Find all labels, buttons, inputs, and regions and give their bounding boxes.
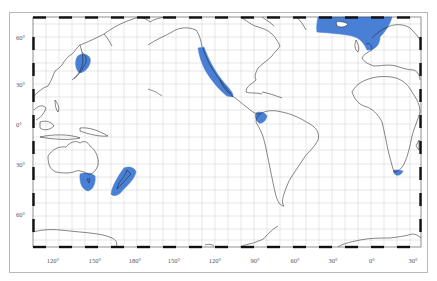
lon-label-30e: 30°: [408, 257, 417, 264]
lat-label-60n: 60°: [16, 34, 25, 41]
lon-label-0: 0°: [369, 257, 375, 264]
lat-label-30n: 30°: [16, 81, 25, 88]
lat-label-60s: 60°: [16, 211, 25, 218]
lat-label-30s: 30°: [16, 161, 25, 168]
lon-label-120w: 120°: [209, 257, 221, 264]
world-map: [0, 0, 437, 281]
lon-label-120e: 120°: [47, 257, 59, 264]
lon-label-150w: 150°: [168, 257, 180, 264]
lon-label-60w: 60°: [290, 257, 299, 264]
lon-label-30w: 30°: [328, 257, 337, 264]
lon-label-90w: 90°: [250, 257, 259, 264]
lat-label-0: 0°: [16, 121, 22, 128]
lon-label-150e: 150°: [89, 257, 101, 264]
lon-label-180: 180°: [129, 257, 141, 264]
map-area: [33, 17, 421, 247]
